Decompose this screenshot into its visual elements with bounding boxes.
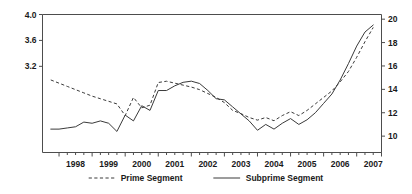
plot-frame-border [43, 15, 382, 153]
chart-figure: 4.03.63.2 201816141210 19981999200020012… [0, 0, 412, 194]
left-axis-tick-labels: 4.03.63.2 [25, 10, 37, 72]
left-axis-tick-label: 4.0 [25, 10, 37, 20]
x-axis-tick-label: 2004 [265, 159, 284, 169]
chart-canvas: 4.03.63.2 201816141210 19981999200020012… [0, 0, 412, 194]
series-line-prime-segment [51, 27, 373, 120]
right-axis-tick-label: 16 [388, 61, 398, 71]
x-axis-tick-label: 2000 [132, 159, 151, 169]
x-axis-tick-label: 2007 [364, 159, 383, 169]
right-axis-tick-label: 14 [388, 84, 398, 94]
right-axis-tick-labels: 201816141210 [388, 14, 398, 141]
series-group [51, 25, 373, 131]
x-axis-tick-labels: 1998199920002001200220032004200520062007 [66, 159, 383, 169]
right-axis-tick-label: 18 [388, 38, 398, 48]
plot-frame [43, 15, 382, 153]
x-axis-tick-label: 2001 [165, 159, 184, 169]
series-line-subprime-segment [51, 25, 373, 131]
x-axis-tick-label: 1999 [99, 159, 118, 169]
x-axis-ticks [59, 153, 381, 157]
x-axis-tick-label: 1998 [66, 159, 85, 169]
legend-label-prime-segment: Prime Segment [121, 173, 183, 183]
x-axis-tick-label: 2003 [231, 159, 250, 169]
right-axis-ticks [382, 19, 386, 136]
right-axis-tick-label: 12 [388, 108, 398, 118]
right-axis-tick-label: 10 [388, 131, 398, 141]
left-axis-tick-label: 3.6 [25, 35, 37, 45]
right-axis-tick-label: 20 [388, 14, 398, 24]
legend-label-subprime-segment: Subprime Segment [246, 173, 324, 183]
left-axis-tick-label: 3.2 [25, 61, 37, 71]
x-axis-tick-label: 2002 [198, 159, 217, 169]
chart-legend: Prime Segment Subprime Segment [89, 173, 324, 183]
x-axis-tick-label: 2006 [331, 159, 350, 169]
x-axis-tick-label: 2005 [298, 159, 317, 169]
left-axis-ticks [39, 15, 43, 67]
